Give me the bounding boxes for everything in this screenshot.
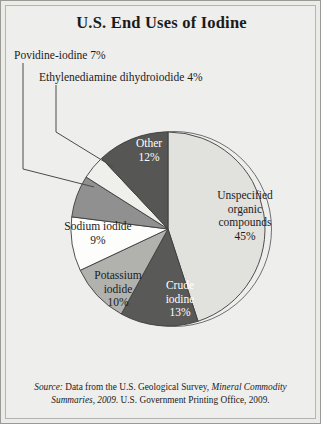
slice-label-crude-iodine: Crude iodine 13% — [153, 279, 207, 320]
slice-label-potassium-iodide: Potassium iodide 10% — [81, 269, 155, 310]
slice-label-unspecified-organic-compounds: Unspecified organic compounds 45% — [197, 189, 293, 243]
leader-line-povidine-iodine — [23, 63, 94, 187]
slice-label-other: Other 12% — [118, 137, 180, 164]
leader-line-ethylenediamine — [56, 85, 113, 167]
source-prefix: Source: — [34, 382, 63, 392]
source-note: Source: Data from the U.S. Geological Su… — [17, 381, 304, 406]
slice-label-sodium-iodide: Sodium iodide 9% — [46, 220, 150, 247]
slice-value: 12% — [118, 151, 180, 165]
slice-label-line: iodine — [153, 293, 207, 307]
slice-value: 13% — [153, 306, 207, 320]
source-text-a: Data from the U.S. Geological Survey, — [63, 382, 212, 392]
slice-value: 10% — [81, 296, 155, 310]
slice-value: 9% — [46, 234, 150, 248]
slice-label-line: organic — [197, 203, 293, 217]
slice-value: 45% — [197, 230, 293, 244]
slice-label-line: Unspecified — [197, 189, 293, 203]
slice-label-line: Other — [118, 137, 180, 151]
slice-label-line: Potassium — [81, 269, 155, 283]
slice-label-line: iodide — [81, 283, 155, 297]
slice-label-line: Crude — [153, 279, 207, 293]
source-text-b: U.S. Government Printing Office, 2009. — [118, 395, 269, 405]
pie-chart-figure: U.S. End Uses of Iodine Povidine-iodine … — [0, 0, 321, 424]
slice-label-line: compounds — [197, 216, 293, 230]
slice-label-line: Sodium iodide — [46, 220, 150, 234]
